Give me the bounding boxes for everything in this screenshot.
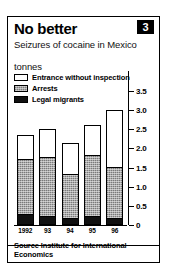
legend-item-label: Entrance without inspection (32, 73, 130, 82)
chart-units-label: tonnes (14, 61, 42, 72)
x-axis-tick-label: 94 (59, 227, 81, 234)
x-axis (14, 225, 127, 226)
bar-93 (39, 129, 56, 225)
bar-segment-legal-migrants (18, 214, 33, 224)
y-axis: 00.51.01.52.02.53.03.5 (128, 71, 143, 225)
chart-bars-region (14, 91, 126, 225)
bar-group (14, 91, 126, 225)
source-note: Source Institute for International Econo… (14, 241, 159, 259)
y-axis-tick (129, 110, 134, 111)
y-axis-tick (129, 91, 134, 92)
bar-segment-arrests (107, 167, 122, 219)
bar-1992 (17, 135, 34, 225)
chart-number-badge: 3 (137, 20, 154, 34)
bar-segment-arrests (63, 174, 78, 218)
chart-page: No better 3 Seizures of cocaine in Mexic… (0, 0, 169, 276)
y-axis-tick-label: 2.0 (136, 144, 147, 153)
y-axis-tick-label: 3.5 (136, 87, 147, 96)
bar-segment-arrests (85, 155, 100, 216)
y-axis-tick (129, 148, 134, 149)
x-axis-tick-label: 96 (104, 227, 126, 234)
y-axis-tick-label: 1.0 (136, 182, 147, 191)
chart-plot-area: 00.51.01.52.02.53.03.5 199293949596 (8, 91, 159, 241)
y-axis-tick (129, 168, 134, 169)
x-axis-tick-label: 93 (36, 227, 58, 234)
y-axis-tick (129, 187, 134, 188)
bar-segment-legal-migrants (107, 218, 122, 224)
bar-94 (62, 143, 79, 225)
bar-segment-arrests (40, 157, 55, 216)
y-axis-tick (129, 206, 134, 207)
y-axis-tick (129, 129, 134, 130)
bar-95 (84, 125, 101, 225)
chart-figure: No better 3 Seizures of cocaine in Mexic… (7, 16, 160, 263)
x-axis-tick-label: 1992 (14, 227, 36, 234)
bar-96 (106, 110, 123, 225)
x-axis-tick-label: 95 (81, 227, 103, 234)
x-axis-labels: 199293949596 (14, 227, 126, 239)
legend-item: Entrance without inspection (14, 73, 134, 82)
y-axis-tick-label: 0 (136, 221, 140, 230)
y-axis-tick-label: 2.5 (136, 125, 147, 134)
bar-segment-legal-migrants (40, 216, 55, 224)
y-axis-tick-label: 1.5 (136, 163, 147, 172)
bar-segment-arrests (18, 159, 33, 215)
legend-swatch-icon (14, 74, 28, 81)
chart-header: No better 3 Seizures of cocaine in Mexic… (8, 17, 159, 75)
y-axis-tick (129, 225, 134, 226)
page-title: No better (14, 20, 77, 37)
y-axis-tick-label: 3.0 (136, 106, 147, 115)
y-axis-tick-label: 0.5 (136, 201, 147, 210)
bar-segment-legal-migrants (63, 218, 78, 224)
chart-subtitle: Seizures of cocaine in Mexico (14, 39, 156, 50)
bar-segment-legal-migrants (85, 216, 100, 224)
